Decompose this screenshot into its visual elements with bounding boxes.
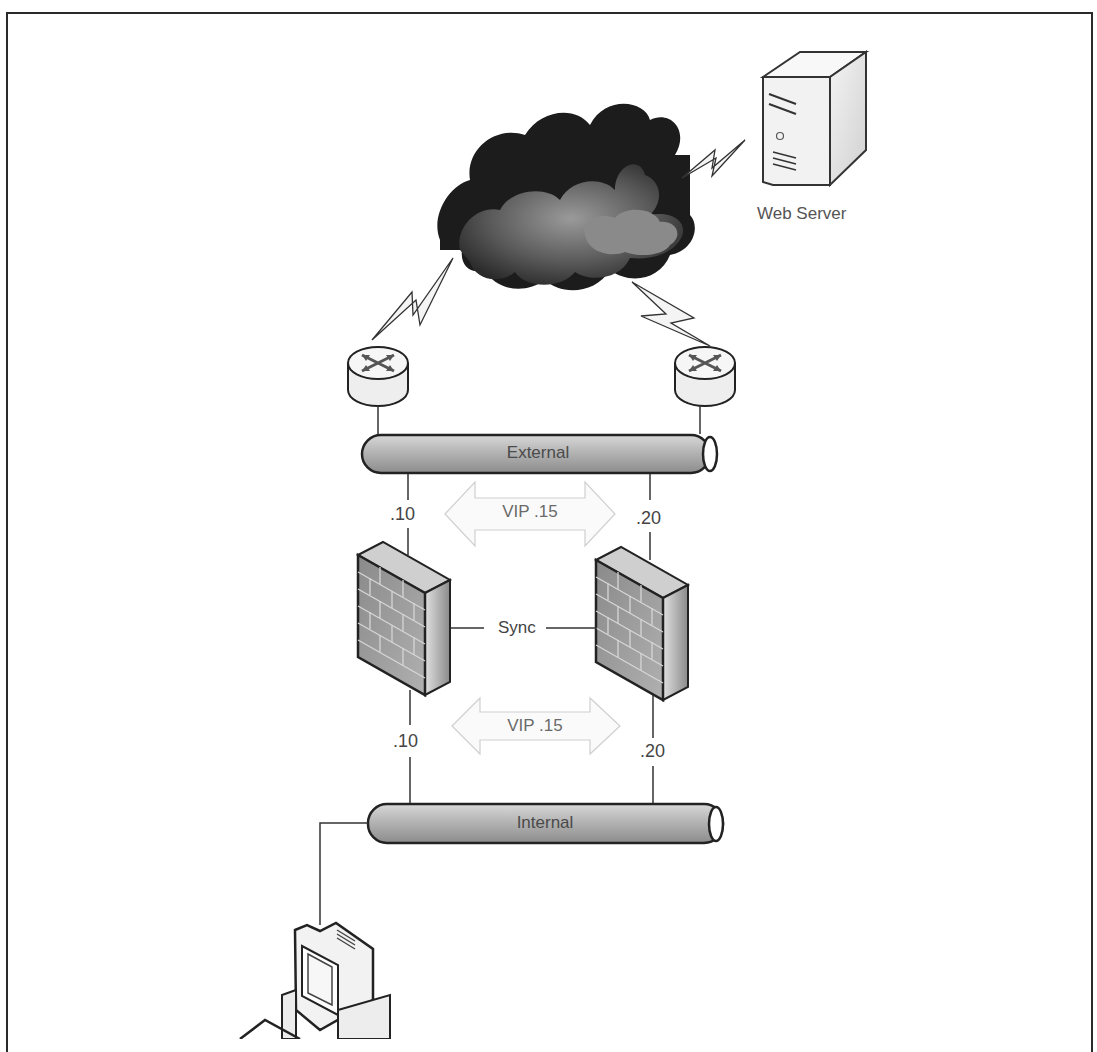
int-right-ip: .20	[640, 741, 665, 762]
ext-left-ip: .10	[390, 504, 415, 525]
internal-segment-label: Internal	[517, 813, 574, 833]
sync-label: Sync	[498, 618, 536, 638]
cloud-icon	[437, 104, 694, 290]
wan-link-icon	[682, 140, 745, 178]
external-segment-label: External	[507, 443, 569, 463]
web-server-label: Web Server	[757, 204, 846, 224]
int-left-ip: .10	[393, 731, 418, 752]
computer-icon	[240, 923, 390, 1039]
ext-right-ip: .20	[636, 508, 661, 529]
firewall-icon	[596, 547, 688, 700]
ext-vip-label: VIP .15	[502, 502, 557, 522]
router-icon	[348, 347, 408, 434]
server-icon	[763, 52, 866, 185]
int-vip-label: VIP .15	[507, 716, 562, 736]
wan-link-icon	[632, 282, 710, 346]
wan-link-icon	[372, 258, 453, 340]
firewall-icon	[358, 542, 450, 695]
router-icon	[675, 347, 735, 434]
